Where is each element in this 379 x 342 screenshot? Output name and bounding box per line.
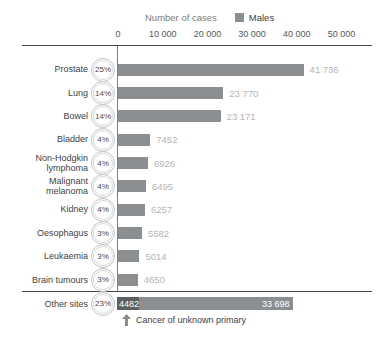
category-label: Brain tumours bbox=[0, 275, 88, 286]
bar bbox=[117, 227, 142, 239]
zero-baseline bbox=[117, 46, 118, 291]
unknown-primary-value: 4482 bbox=[119, 299, 139, 309]
percent-circle: 3% bbox=[91, 221, 115, 245]
percent-label: 23% bbox=[95, 299, 111, 308]
chart-header: Number of cases Males bbox=[0, 0, 379, 24]
legend-label: Males bbox=[249, 12, 274, 23]
percent-label: 3% bbox=[97, 229, 109, 238]
percent-circle: 4% bbox=[91, 151, 115, 175]
category-row: Prostate 25% 41 736 bbox=[0, 58, 379, 81]
percent-circle: 14% bbox=[91, 104, 115, 128]
category-row: Non-Hodgkin lymphoma 4% 6926 bbox=[0, 151, 379, 174]
category-label: Oesophagus bbox=[0, 228, 88, 239]
percent-circle: 25% bbox=[91, 58, 115, 82]
other-sites-value: 33 698 bbox=[262, 299, 290, 309]
value-label: 41 736 bbox=[310, 64, 339, 75]
percent-circle: 4% bbox=[91, 198, 115, 222]
percent-label: 4% bbox=[97, 205, 109, 214]
value-label: 6926 bbox=[154, 158, 175, 169]
value-label: 5582 bbox=[148, 228, 169, 239]
chart-title: Number of cases bbox=[145, 12, 217, 23]
category-label: Bowel bbox=[0, 111, 88, 122]
males-legend-swatch-icon bbox=[235, 13, 244, 22]
x-tick-label: 50 000 bbox=[328, 29, 356, 39]
percent-label: 3% bbox=[97, 252, 109, 261]
percent-label: 4% bbox=[97, 182, 109, 191]
percent-circle: 4% bbox=[91, 174, 115, 198]
value-label: 5014 bbox=[145, 251, 166, 262]
bar bbox=[117, 134, 150, 146]
up-arrow-icon bbox=[122, 314, 131, 326]
category-label: Other sites bbox=[0, 299, 88, 310]
x-axis-tick-labels: 010 00020 00030 00040 00050 000 bbox=[118, 29, 379, 42]
bar-rows: Prostate 25% 41 736 Lung 14% 23 770 Bowe… bbox=[0, 58, 379, 291]
value-label: 6495 bbox=[152, 181, 173, 192]
legend: Males bbox=[235, 12, 274, 23]
percent-label: 3% bbox=[97, 275, 109, 284]
category-row: Lung 14% 23 770 bbox=[0, 81, 379, 104]
annotation-text: Cancer of unknown primary bbox=[136, 315, 246, 325]
value-label: 23 770 bbox=[229, 88, 258, 99]
category-label: Non-Hodgkin lymphoma bbox=[0, 153, 88, 174]
separator-line bbox=[22, 291, 372, 292]
x-tick-label: 30 000 bbox=[238, 29, 266, 39]
plot-area: Prostate 25% 41 736 Lung 14% 23 770 Bowe… bbox=[0, 46, 379, 291]
x-tick-label: 20 000 bbox=[194, 29, 222, 39]
percent-label: 25% bbox=[95, 65, 111, 74]
category-row: Bowel 14% 23 171 bbox=[0, 105, 379, 128]
value-label: 23 171 bbox=[227, 111, 256, 122]
bar bbox=[117, 64, 304, 76]
x-tick-label: 10 000 bbox=[149, 29, 177, 39]
bar bbox=[117, 180, 146, 192]
category-row: Malignant melanoma 4% 6495 bbox=[0, 175, 379, 198]
percent-circle: 3% bbox=[91, 268, 115, 292]
bar bbox=[117, 204, 145, 216]
category-row: Brain tumours 3% 4650 bbox=[0, 268, 379, 291]
category-label: Malignant melanoma bbox=[0, 176, 88, 197]
value-label: 6257 bbox=[151, 204, 172, 215]
percent-label: 4% bbox=[97, 135, 109, 144]
category-row: Kidney 4% 6257 bbox=[0, 198, 379, 221]
value-label: 4650 bbox=[144, 274, 165, 285]
cancer-cases-chart: Number of cases Males 010 00020 00030 00… bbox=[0, 0, 379, 342]
x-tick-label: 0 bbox=[115, 29, 120, 39]
category-label: Leukaemia bbox=[0, 251, 88, 262]
bar bbox=[117, 110, 221, 122]
category-label: Lung bbox=[0, 88, 88, 99]
category-row: Bladder 4% 7452 bbox=[0, 128, 379, 151]
other-sites-bar: 4482 33 698 bbox=[117, 297, 379, 310]
unknown-primary-segment: 4482 bbox=[117, 297, 139, 310]
category-row: Oesophagus 3% 5582 bbox=[0, 221, 379, 244]
category-label: Prostate bbox=[0, 64, 88, 75]
percent-circle: 4% bbox=[91, 128, 115, 152]
percent-circle: 3% bbox=[91, 244, 115, 268]
other-sites-segment: 33 698 bbox=[139, 297, 293, 310]
x-tick-label: 40 000 bbox=[283, 29, 311, 39]
bar bbox=[117, 87, 223, 99]
category-row: Leukaemia 3% 5014 bbox=[0, 245, 379, 268]
percent-circle: 23% bbox=[91, 292, 115, 316]
percent-label: 4% bbox=[97, 159, 109, 168]
percent-label: 14% bbox=[95, 89, 111, 98]
annotation: Cancer of unknown primary bbox=[122, 314, 379, 326]
other-sites-row: Other sites 23% 4482 33 698 bbox=[0, 295, 379, 312]
value-label: 7452 bbox=[156, 134, 177, 145]
percent-circle: 14% bbox=[91, 81, 115, 105]
bar bbox=[117, 250, 139, 262]
bar bbox=[117, 157, 148, 169]
category-label: Kidney bbox=[0, 204, 88, 215]
category-label: Bladder bbox=[0, 134, 88, 145]
bar bbox=[117, 274, 138, 286]
percent-label: 14% bbox=[95, 112, 111, 121]
